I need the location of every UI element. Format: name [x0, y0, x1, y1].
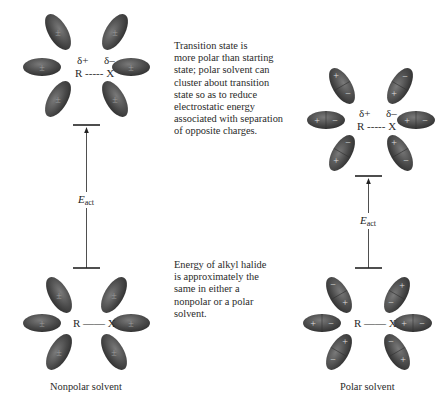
svg-text:±: ±	[39, 318, 45, 329]
ground-state-bond: R —— X	[73, 317, 116, 329]
svg-text:±: ±	[56, 347, 62, 358]
svg-text:−: −	[332, 115, 338, 126]
svg-text:±: ±	[55, 94, 61, 105]
svg-text:−: −	[388, 336, 394, 347]
svg-text:+: +	[404, 115, 410, 126]
svg-text:+: +	[342, 336, 348, 347]
svg-text:−: −	[388, 297, 394, 308]
svg-text:−: −	[345, 137, 351, 148]
svg-text:−: −	[328, 318, 334, 329]
delta-minus-label: δ–	[386, 107, 397, 119]
svg-text:±: ±	[112, 27, 118, 38]
svg-text:+: +	[401, 318, 407, 329]
svg-text:+: +	[333, 70, 339, 81]
svg-text:+: +	[333, 155, 339, 166]
solvent-molecule: ±	[112, 58, 150, 76]
activation-energy-label: Eact	[78, 192, 94, 208]
svg-text:±: ±	[39, 62, 45, 73]
solvent-molecule: ±	[40, 77, 76, 121]
solvent-molecule: ±	[97, 10, 133, 54]
transition-state-note: Transition state is more polar than star…	[174, 40, 283, 138]
svg-text:+: +	[314, 115, 320, 126]
svg-text:±: ±	[111, 347, 117, 358]
svg-text:−: −	[330, 279, 336, 290]
svg-text:+: +	[310, 318, 316, 329]
svg-text:−: −	[402, 71, 408, 82]
nonpolar-solvent-caption: Nonpolar solvent	[50, 381, 122, 392]
solvent-molecule: ±	[23, 58, 61, 76]
dipole-symbol: ±	[55, 27, 61, 38]
svg-text:+: +	[391, 88, 397, 99]
ground-state-note: Energy of alkyl halide is approximately …	[174, 259, 266, 320]
delta-plus-label: δ+	[359, 107, 370, 119]
svg-text:+: +	[400, 354, 406, 365]
svg-text:+: +	[391, 137, 397, 148]
svg-text:+: +	[399, 280, 405, 291]
delta-plus-label: δ+	[77, 54, 88, 66]
svg-text:±: ±	[128, 318, 134, 329]
svg-text:−: −	[345, 88, 351, 99]
delta-minus-label: δ–	[104, 54, 115, 66]
ground-state-bond: R —— X	[354, 317, 397, 329]
svg-text:±: ±	[128, 62, 134, 73]
svg-text:−: −	[419, 318, 425, 329]
solvent-molecule: ±	[97, 77, 133, 121]
activation-energy-label: Eact	[360, 213, 376, 229]
transition-state-bond: R ----- X	[357, 120, 396, 132]
svg-text:−: −	[330, 354, 336, 365]
svg-text:±: ±	[112, 94, 118, 105]
svg-text:+: +	[342, 297, 348, 308]
svg-text:±: ±	[111, 290, 117, 301]
svg-text:±: ±	[56, 290, 62, 301]
transition-state-bond: R ----- X	[75, 67, 114, 79]
svg-text:−: −	[403, 155, 409, 166]
svg-text:−: −	[422, 115, 428, 126]
solvent-molecule: ±	[40, 10, 76, 54]
polar-solvent-caption: Polar solvent	[340, 381, 395, 392]
